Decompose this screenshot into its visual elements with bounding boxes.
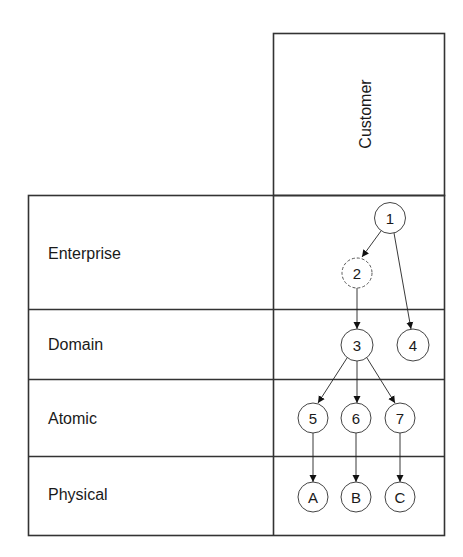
node-B: B (341, 482, 371, 512)
node-1: 1 (375, 203, 406, 234)
node-C: C (385, 482, 415, 512)
edge-1-4 (394, 233, 411, 329)
svg-text:3: 3 (353, 337, 361, 354)
node-2: 2 (342, 258, 372, 288)
svg-text:C: C (395, 489, 406, 506)
row-label-atomic: Atomic (48, 410, 97, 427)
customer-label: Customer (357, 79, 374, 149)
svg-text:2: 2 (353, 265, 361, 282)
edge-3-7 (367, 358, 395, 403)
layer-diagram: Customer Enterprise Domain Atomic Physic… (0, 0, 463, 557)
row-label-physical: Physical (48, 486, 108, 503)
edge-1-2 (362, 231, 381, 257)
svg-text:5: 5 (309, 410, 317, 427)
svg-text:7: 7 (396, 410, 404, 427)
node-5: 5 (298, 403, 328, 433)
svg-text:B: B (351, 489, 361, 506)
row-label-domain: Domain (48, 336, 103, 353)
node-A: A (298, 482, 328, 512)
node-6: 6 (341, 403, 371, 433)
customer-column-header: Customer (274, 34, 445, 196)
svg-text:A: A (308, 489, 318, 506)
svg-text:6: 6 (352, 410, 360, 427)
svg-text:4: 4 (409, 337, 417, 354)
edge-3-5 (318, 358, 347, 403)
node-4: 4 (397, 329, 429, 361)
row-label-enterprise: Enterprise (48, 245, 121, 262)
svg-text:1: 1 (386, 210, 394, 227)
node-3: 3 (341, 329, 373, 361)
node-7: 7 (385, 403, 415, 433)
